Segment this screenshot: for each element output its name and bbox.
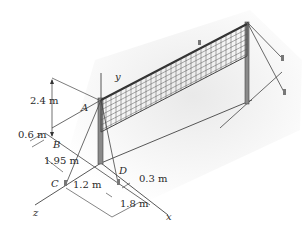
anchor-C (64, 180, 67, 186)
y-axis-label: y (115, 72, 121, 82)
far-anchor-1 (281, 55, 284, 61)
dim-1-2-line (106, 193, 112, 197)
dim-1-2-label: 1.2 m (73, 180, 102, 190)
dim-1-8-line (66, 188, 112, 217)
dim-height-label: 2.4 m (30, 96, 59, 106)
point-D-label: D (119, 166, 127, 176)
dim-offset-B-label: 0.6 m (18, 130, 47, 140)
point-A-label: A (81, 103, 88, 113)
dim-1-95-label: 1.95 m (44, 156, 79, 166)
net-tensioner (198, 40, 201, 45)
net-diagram: y x z A B C D 2.4 m 0.6 m 1.95 m 1.2 m 0… (0, 0, 302, 233)
dim-arrow-up (50, 79, 54, 84)
x-axis-label: x (166, 212, 172, 222)
point-B-label: B (53, 140, 60, 150)
dim-0-6-tick2 (32, 140, 44, 147)
z-axis-label: z (33, 208, 38, 218)
dim-0-3-label: 0.3 m (139, 174, 168, 184)
far-anchor-2 (283, 89, 286, 95)
anchor-D (117, 179, 120, 185)
diagram-drawing (0, 0, 302, 233)
dim-1-8-label: 1.8 m (120, 199, 149, 209)
dim-arrow-down (50, 132, 54, 137)
point-C-label: C (51, 179, 59, 189)
background-shading (60, 10, 302, 200)
